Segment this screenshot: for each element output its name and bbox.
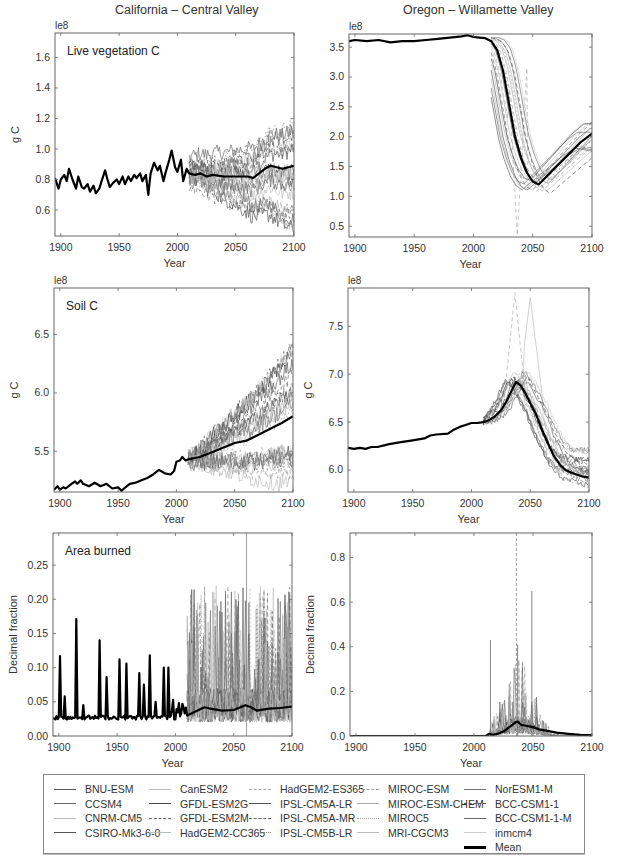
x-tick-label: 2000 [462,242,486,254]
legend-swatch-icon [464,803,486,804]
x-tick-label: 2050 [222,741,246,753]
y-tick-label: 0.0 [330,730,345,742]
y-tick-label: 1.0 [35,143,50,155]
legend-item-bnu-esm: BNU-ESM [54,782,133,796]
panel-annotation: Area burned [65,544,131,558]
legend-item-csiro-mk3-6-0: CSIRO-Mk3-6-0 [54,826,160,840]
x-tick-label: 1900 [48,497,72,509]
plot-area [348,293,589,489]
x-tick-label: 2050 [224,241,248,253]
x-tick-label: 2050 [521,242,545,254]
y-tick-label: 0.2 [330,685,345,697]
legend-item-mean: Mean [464,840,521,854]
x-tick-label: 1900 [343,242,367,254]
legend-item-noresm1-m: NorESM1-M [464,782,553,796]
series-mean [350,722,592,737]
y-tick-label: 5.5 [34,445,49,457]
y-tick-label: 0.8 [330,551,345,563]
legend-swatch-icon [357,818,379,819]
legend-label: inmcm4 [495,827,532,839]
legend-label: GFDL-ESM2M [180,812,249,824]
series-hadgem2-cc365 [491,49,592,181]
x-axis-label: Year [460,757,483,769]
legend-item-bcc-csm1-1: BCC-CSM1-1 [464,797,559,811]
x-tick-label: 2100 [580,242,604,254]
x-tick-label: 2000 [462,741,486,753]
x-tick-label: 2000 [165,497,189,509]
y-tick-label: 0.15 [28,627,49,639]
chart-panel-ca-live-veg: 190019502000205021000.60.81.01.21.41.6Ye… [9,20,306,269]
legend-swatch-icon [149,789,171,790]
legend-item-miroc-esm: MIROC-ESM [357,782,449,796]
x-tick-label: 2100 [282,241,306,253]
plot-area [350,533,592,736]
series-ccsm4 [491,88,592,184]
legend-item-ipsl-cm5a-mr: IPSL-CM5A-MR [249,811,355,825]
legend-swatch-icon [54,818,76,819]
y-tick-label: 0.05 [28,695,49,707]
series-gfdl-esm2g [491,59,592,181]
y-tick-label: 2.0 [329,130,344,142]
x-tick-label: 2100 [281,497,305,509]
x-tick-label: 2050 [519,497,543,509]
y-tick-label: 1.6 [35,51,50,63]
x-tick-label: 2050 [223,497,247,509]
legend-swatch-icon [149,803,171,804]
y-tick-label: 1.2 [35,112,50,124]
legend-item-canesm2: CanESM2 [149,782,228,796]
legend-label: CCSM4 [85,798,122,810]
axis-offset-label: le8 [55,20,69,31]
x-tick-label: 2000 [164,741,188,753]
legend-swatch-icon [464,832,486,833]
axes-frame [348,288,589,492]
x-tick-label: 1950 [401,497,425,509]
x-axis-label: Year [459,258,482,270]
legend-item-cnrm-cm5: CNRM-CM5 [54,811,142,825]
x-tick-label: 1950 [403,242,427,254]
x-tick-label: 2100 [577,497,601,509]
legend-item-hadgem2-cc365: HadGEM2-CC365 [149,826,265,840]
legend-item-gfdl-esm2m: GFDL-ESM2M [149,811,249,825]
legend-swatch-icon [149,818,171,819]
x-tick-label: 2000 [166,241,190,253]
axis-offset-label: le8 [54,275,68,286]
chart-panel-ca-soil: 190019502000205021005.56.06.5Yearg Cle8S… [8,275,305,525]
series-miroc-esm-chem [483,379,589,472]
y-tick-label: 0.20 [28,593,49,605]
y-tick-label: 0.10 [28,661,49,673]
legend-swatch-icon [464,789,486,790]
legend-label: BNU-ESM [85,783,133,795]
chart-panel-or-area-burned: 190019502000205021000.00.20.40.60.8YearD… [304,533,604,769]
y-axis-label: g C [302,381,314,398]
x-axis-label: Year [162,513,185,525]
legend-swatch-icon [54,789,76,790]
y-tick-label: 1.4 [35,81,50,93]
series-bnu-esm [483,379,589,475]
legend-label: BCC-CSM1-1-M [495,812,571,824]
legend-swatch-icon [357,832,379,833]
x-tick-label: 1950 [106,497,130,509]
legend-item-mri-cgcm3: MRI-CGCM3 [357,826,449,840]
legend-label: HadGEM2-ES365 [280,783,364,795]
legend-swatch-icon [464,818,486,819]
plot-area [54,341,293,492]
plot-area [55,118,294,234]
legend-label: Mean [495,841,521,853]
legend-item-inmcm4: inmcm4 [464,826,532,840]
axes-frame [349,34,592,237]
plot-area [53,533,292,736]
legend-swatch-icon [464,846,486,849]
y-tick-label: 0.5 [329,220,344,232]
x-tick-label: 1900 [342,497,366,509]
chart-panel-or-live-veg: 190019502000205021000.51.01.52.02.53.03.… [329,21,603,270]
x-axis-label: Year [163,257,186,269]
y-axis-label: g C [9,126,21,143]
legend-swatch-icon [249,789,271,790]
y-tick-label: 6.5 [328,416,343,428]
y-tick-label: 6.0 [34,386,49,398]
x-tick-label: 1950 [105,741,129,753]
x-tick-label: 2100 [280,741,304,753]
legend-label: MIROC-ESM [388,783,449,795]
x-axis-label: Year [161,757,184,769]
x-tick-label: 1950 [107,241,131,253]
